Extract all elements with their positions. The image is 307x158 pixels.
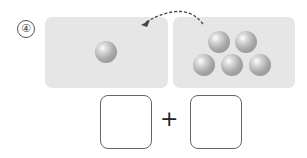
- answer-box-2[interactable]: [190, 95, 242, 149]
- plus-sign: +: [160, 106, 178, 131]
- answer-box-1[interactable]: [100, 95, 152, 149]
- arrow-icon: [0, 0, 307, 158]
